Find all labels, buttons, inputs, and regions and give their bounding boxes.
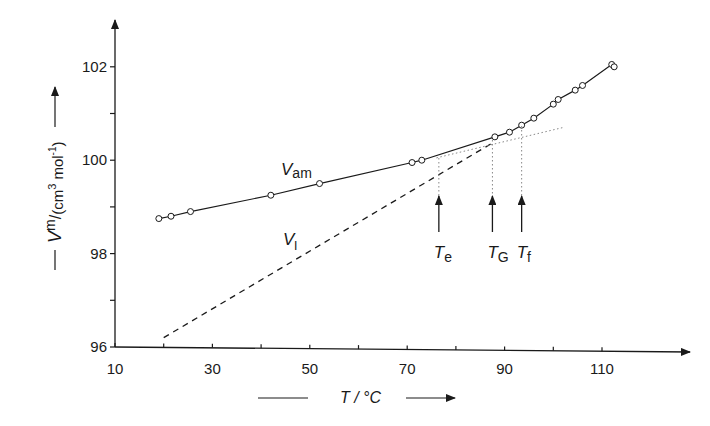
series-layer: VamVl: [156, 61, 617, 337]
x-tick-label: 110: [590, 360, 614, 377]
volume-temperature-chart: 96981001021030507090110 VamVl TeTGTf T /…: [0, 0, 710, 426]
data-point-marker: [531, 115, 537, 121]
x-axis-line: [115, 347, 690, 352]
series-label-v-am: Vam: [281, 160, 312, 181]
y-tick-label: 102: [82, 58, 107, 75]
data-point-marker: [268, 192, 274, 198]
annotation-label-f: Tf: [517, 243, 531, 265]
data-point-marker: [550, 101, 556, 107]
data-point-marker: [555, 96, 561, 102]
y-tick-label: 100: [82, 151, 107, 168]
data-point-marker: [168, 213, 174, 219]
data-point-marker: [492, 134, 498, 140]
y-axis-title-group: Vm/(cm3 mol-1): [42, 87, 66, 270]
annotation-label-e: Te: [434, 243, 452, 265]
series-V_l: [164, 142, 495, 338]
data-point-marker: [187, 209, 193, 215]
data-point-marker: [572, 87, 578, 93]
data-point-marker: [156, 216, 162, 222]
y-tick-label: 98: [90, 245, 107, 262]
data-point-marker: [611, 64, 617, 70]
x-tick-label: 70: [399, 360, 416, 377]
data-point-marker: [419, 157, 425, 163]
x-axis-title: T / °C: [340, 389, 382, 406]
x-tick-label: 50: [301, 360, 318, 377]
data-point-marker: [580, 82, 586, 88]
series-V_am: [159, 64, 614, 218]
x-tick-label: 90: [496, 360, 513, 377]
series-glass-extrapolation: [436, 128, 563, 158]
annotations: TeTGTf: [434, 126, 531, 265]
y-axis-title: Vm/(cm3 mol-1): [42, 141, 66, 243]
series-label-v-l: Vl: [283, 230, 297, 253]
x-tick-label: 10: [107, 360, 124, 377]
data-point-marker: [409, 160, 415, 166]
data-point-marker: [317, 181, 323, 187]
x-tick-label: 30: [204, 360, 221, 377]
data-point-marker: [506, 129, 512, 135]
annotation-label-G: TG: [487, 243, 508, 265]
y-tick-label: 96: [90, 338, 107, 355]
